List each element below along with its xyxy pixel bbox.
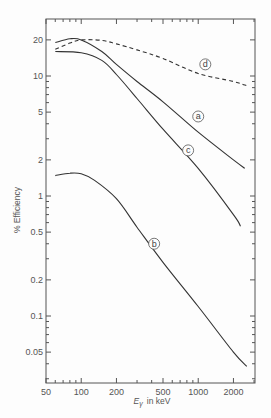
y-tick-label: 0.1: [30, 311, 43, 321]
y-tick-label: 0.2: [30, 275, 43, 285]
curve-labels: abcd: [149, 59, 211, 249]
curve-label-d: d: [203, 59, 208, 69]
y-tick-label: 2: [38, 155, 43, 165]
x-axis-title-subscript: γ: [139, 400, 143, 408]
x-tick-label: 2000: [223, 387, 243, 397]
y-tick-label: 0.05: [25, 347, 43, 357]
curve-a: [55, 38, 245, 168]
y-tick-label: 1: [38, 191, 43, 201]
curve-label-c: c: [186, 145, 191, 155]
y-axis-ticks: 0.050.10.20.51251020: [25, 35, 255, 379]
y-tick-label: 10: [33, 71, 43, 81]
y-axis-title: % Efficiency: [12, 186, 22, 233]
curve-d: [55, 40, 247, 86]
x-axis-ticks: 5010020050010002000: [41, 19, 254, 397]
curves: [55, 38, 247, 366]
curve-label-b: b: [152, 239, 157, 249]
y-tick-label: 5: [38, 107, 43, 117]
efficiency-chart: 5010020050010002000 0.050.10.20.51251020…: [0, 0, 271, 418]
y-tick-label: 0.5: [30, 227, 43, 237]
x-tick-label: 100: [74, 387, 89, 397]
curve-b: [55, 173, 247, 366]
x-tick-label: 50: [41, 387, 51, 397]
x-tick-label: 1000: [188, 387, 208, 397]
curve-label-a: a: [196, 111, 201, 121]
x-axis-title-unit: in keV: [147, 396, 171, 406]
curve-c: [55, 52, 240, 227]
x-tick-label: 200: [109, 387, 124, 397]
y-tick-label: 20: [33, 35, 43, 45]
x-axis-title: Eγin keV: [134, 396, 171, 408]
